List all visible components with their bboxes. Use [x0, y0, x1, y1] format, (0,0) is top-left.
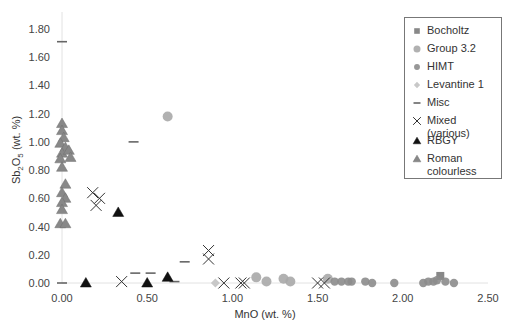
marker-triangle — [57, 162, 68, 172]
marker-circle — [414, 64, 420, 70]
legend-dash-icon — [411, 96, 423, 108]
marker-triangle — [413, 155, 421, 162]
legend-item: HIMT — [411, 60, 454, 73]
y-tick-label: 0.20 — [29, 249, 50, 261]
series-rbgy — [80, 207, 173, 287]
x-tick-label: 1.50 — [307, 292, 328, 304]
marker-circle — [450, 279, 458, 287]
legend-item: Levantine 1 — [411, 78, 484, 91]
x-axis-label: MnO (wt. %) — [234, 308, 295, 320]
legend-label: Group 3.2 — [427, 42, 476, 55]
marker-triangle — [413, 137, 421, 144]
y-tick-label: 0.00 — [29, 277, 50, 289]
marker-x — [87, 187, 98, 198]
legend-triangle-icon — [411, 134, 423, 146]
marker-circle — [368, 279, 376, 287]
legend: BocholtzGroup 3.2HIMTLevantine 1MiscMixe… — [404, 17, 502, 179]
y-tick-label: 1.20 — [29, 108, 50, 120]
y-axis-label: Sb2O5 (wt. %) — [10, 116, 25, 184]
series-himt — [330, 276, 458, 287]
series-roman-colourless — [55, 118, 76, 228]
y-tick-label: 1.60 — [29, 51, 50, 63]
marker-circle — [441, 277, 449, 285]
marker-diamond — [211, 279, 220, 288]
y-tick-label: 0.60 — [29, 192, 50, 204]
legend-x-icon — [411, 114, 423, 126]
marker-circle — [347, 277, 355, 285]
y-tick-label: 1.40 — [29, 79, 50, 91]
marker-triangle — [162, 272, 173, 282]
marker-x — [203, 254, 214, 265]
marker-circle-large — [414, 46, 421, 53]
x-tick-label: 2.00 — [392, 292, 413, 304]
y-tick-label: 1.80 — [29, 23, 50, 35]
y-tick-label: 1.00 — [29, 136, 50, 148]
data-points — [55, 42, 458, 289]
marker-circle — [433, 276, 441, 284]
x-tick-label: 1.00 — [222, 292, 243, 304]
marker-x — [203, 245, 214, 256]
legend-diamond-icon — [411, 78, 423, 90]
marker-circle-large — [163, 111, 173, 121]
legend-square-icon — [411, 24, 423, 36]
legend-label: Misc — [427, 96, 450, 109]
marker-circle-large — [285, 277, 295, 287]
marker-square — [414, 28, 420, 34]
legend-label: RBGY — [427, 134, 458, 147]
legend-circle-icon — [411, 60, 423, 72]
legend-label: HIMT — [427, 60, 454, 73]
legend-item: RBGY — [411, 134, 458, 147]
x-tick-label: 0.00 — [51, 292, 72, 304]
y-tick-labels: 0.000.200.400.600.801.001.201.401.601.80 — [29, 23, 50, 289]
marker-circle-large — [251, 272, 261, 282]
x-tick-labels: 0.000.501.001.502.002.50 — [51, 292, 498, 304]
series-misc — [57, 42, 190, 283]
x-tick-label: 0.50 — [136, 292, 157, 304]
legend-label: Bocholtz — [427, 24, 469, 37]
legend-item: Group 3.2 — [411, 42, 476, 55]
marker-x — [116, 276, 127, 287]
marker-circle-large — [261, 277, 271, 287]
marker-circle — [390, 279, 398, 287]
marker-diamond — [414, 82, 420, 88]
marker-x — [413, 117, 421, 125]
legend-triangle-icon — [411, 152, 423, 164]
y-tick-label: 0.80 — [29, 164, 50, 176]
y-tick-label: 0.40 — [29, 221, 50, 233]
legend-item: Misc — [411, 96, 450, 109]
marker-triangle — [142, 278, 153, 288]
series-levantine-1 — [211, 279, 220, 288]
marker-triangle — [113, 207, 124, 217]
legend-label: Roman colourless — [427, 152, 497, 178]
legend-label: Levantine 1 — [427, 78, 484, 91]
series-group-3-2 — [163, 111, 333, 286]
legend-circle-large-icon — [411, 42, 423, 54]
marker-triangle — [80, 278, 91, 288]
series-mixed-various- — [87, 187, 330, 288]
legend-item: Roman colourless — [411, 152, 497, 178]
legend-item: Bocholtz — [411, 24, 469, 37]
x-tick-label: 2.50 — [477, 292, 498, 304]
